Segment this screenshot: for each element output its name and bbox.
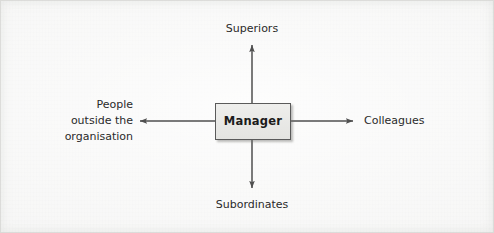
label-people-outside-organisation: People outside the organisation — [65, 97, 133, 145]
diagram-canvas: Manager Superiors Subordinates People ou… — [0, 0, 494, 233]
center-node-label: Manager — [224, 116, 282, 128]
label-colleagues: Colleagues — [364, 113, 424, 129]
label-superiors: Superiors — [0, 21, 494, 37]
center-node-manager: Manager — [215, 103, 291, 140]
label-subordinates: Subordinates — [0, 197, 494, 213]
